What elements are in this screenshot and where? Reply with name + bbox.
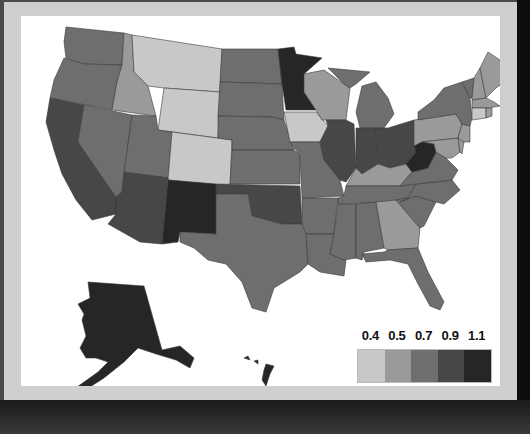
state-fl[interactable] [362, 248, 444, 310]
legend-swatches [357, 349, 492, 383]
legend-swatch [358, 350, 385, 382]
legend-swatch [411, 350, 438, 382]
state-ar[interactable] [302, 198, 338, 234]
state-hi[interactable] [244, 356, 274, 386]
state-wa[interactable] [64, 27, 124, 65]
state-ct[interactable] [472, 108, 486, 120]
legend-label: 0.9 [437, 328, 464, 343]
legend-label: 0.5 [384, 328, 411, 343]
frame-shadow-right [517, 0, 530, 434]
state-nd[interactable] [220, 49, 282, 84]
state-ks[interactable] [230, 150, 300, 184]
legend-swatch [438, 350, 465, 382]
frame-shadow-bottom [0, 400, 530, 434]
state-wy[interactable] [158, 88, 220, 138]
state-ma[interactable] [472, 98, 500, 108]
state-ak[interactable] [70, 282, 194, 386]
legend-labels: 0.4 0.5 0.7 0.9 1.1 [357, 328, 490, 343]
legend-swatch [464, 350, 491, 382]
legend-swatch [385, 350, 412, 382]
state-mt[interactable] [132, 35, 222, 92]
legend-label: 0.4 [357, 328, 384, 343]
legend: 0.4 0.5 0.7 0.9 1.1 [357, 328, 490, 378]
state-ri[interactable] [486, 108, 492, 118]
legend-label: 0.7 [410, 328, 437, 343]
map-frame: 0.4 0.5 0.7 0.9 1.1 [4, 2, 517, 400]
legend-label: 1.1 [463, 328, 490, 343]
state-co[interactable] [168, 132, 232, 186]
state-sd[interactable] [218, 82, 284, 120]
